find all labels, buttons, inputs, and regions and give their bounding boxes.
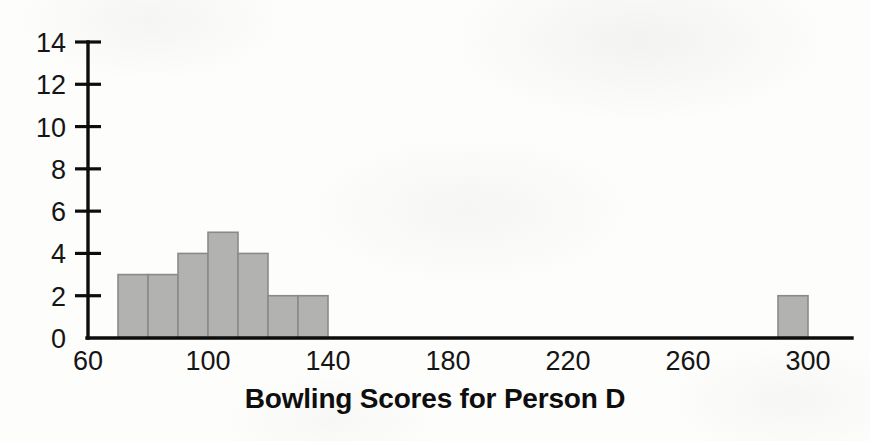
histogram-figure: 0246810121460100140180220260300 Bowling … (0, 0, 870, 441)
histogram-bar (298, 296, 328, 338)
y-axis-tick-label: 8 (51, 155, 66, 185)
y-axis-tick-label: 6 (51, 197, 66, 227)
histogram-bar (238, 253, 268, 338)
histogram-bar (208, 232, 238, 338)
y-axis-tick-label: 0 (51, 324, 66, 354)
x-axis-tick-label: 300 (785, 346, 830, 376)
histogram-bar (178, 253, 208, 338)
x-axis-tick-label: 260 (665, 346, 710, 376)
x-axis-tick-label: 140 (305, 346, 350, 376)
y-axis-tick-label: 10 (36, 113, 66, 143)
histogram-bar (268, 296, 298, 338)
x-axis-tick-label: 220 (545, 346, 590, 376)
histogram-plot-area: 0246810121460100140180220260300 (0, 0, 870, 441)
x-axis-tick-label: 100 (185, 346, 230, 376)
x-axis-tick-label: 180 (425, 346, 470, 376)
histogram-bar (778, 296, 808, 338)
y-axis-tick-label: 2 (51, 282, 66, 312)
y-axis-tick-label: 14 (36, 28, 66, 58)
histogram-bar (118, 275, 148, 338)
y-axis-tick-label: 12 (36, 70, 66, 100)
y-axis-tick-label: 4 (51, 239, 66, 269)
bars-group (118, 232, 808, 338)
chart-title: Bowling Scores for Person D (0, 383, 870, 415)
x-axis-tick-label: 60 (73, 346, 103, 376)
histogram-bar (148, 275, 178, 338)
